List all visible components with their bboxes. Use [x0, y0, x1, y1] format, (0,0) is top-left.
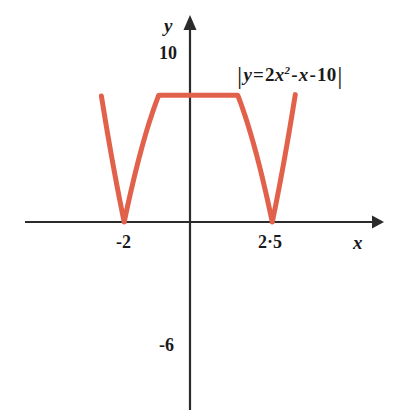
equation-annotation: |y=2x2-x-10| [236, 61, 344, 91]
y-tick-label-neg6: -6 [159, 336, 174, 354]
y-axis-label: y [164, 16, 172, 35]
equation-minus-first: - [290, 64, 299, 85]
x-tick-label-2p5: 2·5 [258, 233, 282, 251]
x-tick-label-neg2: -2 [116, 233, 131, 251]
x-axis-label: x [353, 233, 363, 252]
curve-absolute-quadratic [101, 95, 295, 222]
equation-lhs: y [243, 64, 252, 85]
equation-equals: = [252, 64, 265, 85]
equation-coefficient: 2 [265, 64, 275, 85]
graph-figure: y x 10 -6 -2 2·5 |y=2x2-x-10| [0, 0, 393, 413]
equation-x-linear: x [299, 64, 309, 85]
x-axis [25, 216, 384, 229]
y-tick-label-10: 10 [159, 44, 177, 62]
abs-bar-close: | [336, 61, 343, 90]
y-axis [184, 15, 197, 410]
equation-minus-second: - [308, 64, 317, 85]
equation-constant: 10 [317, 64, 336, 85]
